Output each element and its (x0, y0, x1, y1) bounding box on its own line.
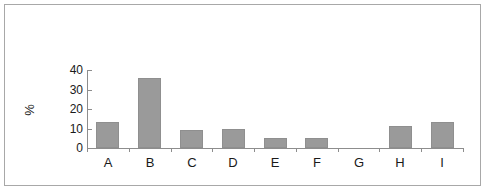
y-axis-tick-mark (87, 90, 92, 91)
x-axis-tick-mark (212, 148, 213, 152)
y-axis-tick-label: 40 (57, 64, 83, 76)
x-axis-category-label: H (379, 155, 421, 170)
y-axis-tick-label: 30 (57, 84, 83, 96)
x-axis-tick-mark (379, 148, 380, 152)
x-axis-tick-mark (338, 148, 339, 152)
y-axis-tick-labels: 403020100 (55, 0, 83, 190)
x-axis-tick-mark (421, 148, 422, 152)
y-axis-tick-label: 20 (57, 103, 83, 115)
bar-c (180, 130, 203, 148)
bar-b (138, 78, 161, 148)
x-axis-category-label: A (87, 155, 129, 170)
bar-a (96, 122, 119, 148)
bar-chart-figure: % 403020100 ABCDEFGHI (0, 0, 485, 190)
x-axis-category-label: B (129, 155, 171, 170)
x-axis-tick-mark (129, 148, 130, 152)
y-axis-tick-mark (87, 70, 92, 71)
x-axis-category-label: I (421, 155, 463, 170)
x-axis-category-label: F (296, 155, 338, 170)
x-axis-tick-mark (171, 148, 172, 152)
x-axis-tick-mark (87, 148, 88, 152)
x-axis-category-label: D (212, 155, 254, 170)
bar-f (305, 138, 328, 148)
bar-h (389, 126, 412, 148)
bar-i (431, 122, 454, 148)
y-axis-title: % (18, 100, 42, 120)
y-axis-tick-mark (87, 109, 92, 110)
y-axis-tick-label: 10 (57, 123, 83, 135)
bar-d (222, 129, 245, 148)
x-axis-category-label: E (254, 155, 296, 170)
x-axis-tick-mark (254, 148, 255, 152)
x-axis-line (87, 148, 463, 149)
x-axis-tick-mark (296, 148, 297, 152)
y-axis-tick-label: 0 (57, 142, 83, 154)
x-axis-category-label: C (171, 155, 213, 170)
x-axis-category-label: G (338, 155, 380, 170)
y-axis-tick-mark (87, 129, 92, 130)
x-axis-tick-mark (463, 148, 464, 152)
bar-e (264, 138, 287, 148)
